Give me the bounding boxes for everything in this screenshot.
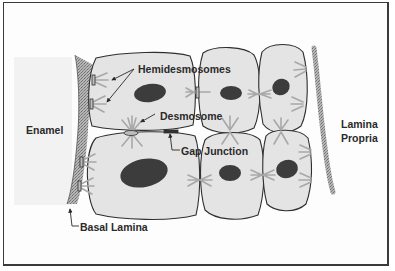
hemidesmosome-plaque — [92, 75, 95, 85]
label-enamel: Enamel — [26, 124, 63, 136]
label-lamina-propria-line1: Lamina — [341, 118, 378, 130]
nucleus — [219, 165, 241, 181]
desmosome-plaque — [124, 131, 138, 136]
hemidesmosome-plaque — [90, 99, 93, 109]
label-desmosome: Desmosome — [160, 110, 222, 122]
desmosome-plaque — [196, 87, 199, 98]
label-hemidesmosomes: Hemidesmosomes — [138, 63, 231, 75]
basal-lamina-pointer — [70, 209, 79, 226]
label-basal-lamina: Basal Lamina — [80, 221, 148, 233]
hemidesmosome-plaque — [80, 157, 83, 167]
lamina-propria-boundary — [314, 48, 333, 192]
nucleus — [220, 86, 242, 100]
gap-junction — [164, 130, 178, 133]
label-lamina-propria-line2: Propria — [341, 132, 378, 144]
hemidesmosome-plaque — [78, 181, 81, 191]
label-gap-junction: Gap Junction — [181, 145, 248, 157]
